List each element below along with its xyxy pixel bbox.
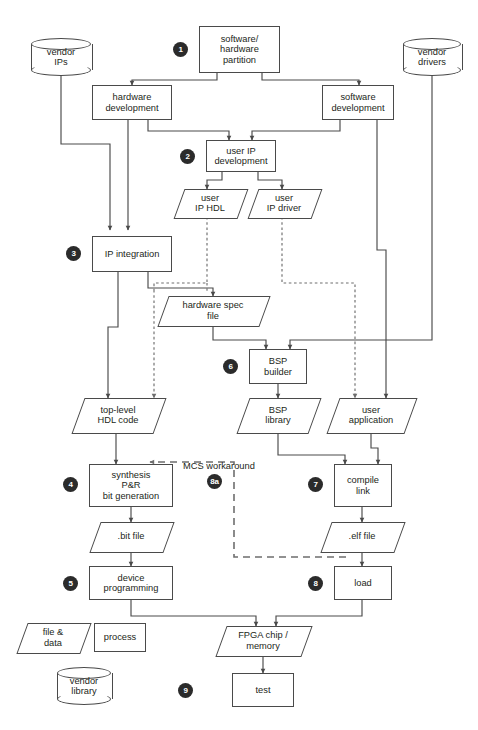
step-badge-9: 9 — [178, 683, 193, 698]
hardware-development-label: hardware development — [103, 92, 160, 113]
legend-process-label: process — [102, 632, 139, 642]
device-programming-label: device programming — [102, 573, 161, 594]
step-badge-2: 2 — [180, 149, 195, 164]
load-process: load — [334, 566, 392, 600]
bit-file: .bit file — [95, 522, 167, 551]
user-ip-development-label: user IP development — [212, 146, 269, 167]
elf-file-label: .elf file — [347, 531, 378, 541]
ip-integration-label: IP integration — [103, 249, 162, 259]
hardware-development-process: hardware development — [92, 85, 172, 120]
ip-integration-process: IP integration — [92, 236, 172, 272]
compile-link-process: compile link — [334, 464, 392, 507]
fpga-chip-memory-label: FPGA chip / memory — [236, 630, 290, 651]
vendor-drivers-datastore: vendor drivers — [403, 38, 461, 76]
device-programming-process: device programming — [89, 566, 173, 600]
hardware-spec-file: hardware spec file — [163, 296, 263, 325]
legend-vendor-library-shape: vendor library — [57, 667, 111, 705]
user-application-file: user application — [333, 398, 409, 432]
step-badge-8a: 8a — [207, 474, 222, 489]
bsp-library-file: BSP library — [243, 398, 313, 432]
bsp-builder-process: BSP builder — [249, 349, 307, 384]
top-level-hdl-code-label: top-level HDL code — [96, 405, 141, 426]
compile-link-label: compile link — [345, 475, 381, 496]
user-ip-driver-label: user IP driver — [265, 193, 303, 214]
legend-vendor-library-label: vendor library — [68, 676, 100, 697]
synthesis-label: synthesis P&R bit generation — [101, 470, 161, 501]
bsp-library-label: BSP library — [263, 405, 292, 426]
vendor-drivers-label: vendor drivers — [416, 47, 448, 68]
load-label: load — [352, 578, 374, 588]
step-badge-8: 8 — [308, 576, 323, 591]
software-development-process: software development — [322, 85, 394, 120]
hardware-spec-file-label: hardware spec file — [181, 300, 246, 321]
step-badge-1: 1 — [173, 42, 188, 57]
test-process: test — [232, 673, 294, 707]
bsp-builder-label: BSP builder — [262, 356, 294, 377]
legend-process-shape: process — [94, 623, 146, 652]
flowchart-diagram: vendor IPs vendor drivers software/ hard… — [0, 0, 478, 730]
user-ip-hdl-file: user IP HDL — [179, 189, 241, 217]
user-ip-development-process: user IP development — [206, 140, 276, 172]
mcs-workaround-label: MCS workaround — [183, 461, 255, 471]
top-level-hdl-code-file: top-level HDL code — [78, 398, 158, 432]
vendor-ips-label: vendor IPs — [45, 47, 77, 68]
step-badge-7: 7 — [308, 477, 323, 492]
step-badge-4: 4 — [63, 477, 78, 492]
step-badge-6: 6 — [223, 359, 238, 374]
software-development-label: software development — [329, 92, 386, 113]
synthesis-process: synthesis P&R bit generation — [89, 464, 173, 507]
step-badge-3: 3 — [66, 246, 81, 261]
step-badge-5: 5 — [63, 576, 78, 591]
legend-file-and-data-shape: file & data — [22, 623, 84, 652]
test-label: test — [254, 685, 273, 695]
user-ip-hdl-label: user IP HDL — [193, 193, 227, 214]
fpga-chip-memory-file: FPGA chip / memory — [221, 626, 305, 655]
legend-file-and-data-label: file & data — [41, 627, 66, 648]
software-hardware-partition-label: software/ hardware partition — [218, 34, 261, 65]
vendor-ips-datastore: vendor IPs — [31, 38, 91, 76]
connector-layer — [0, 0, 478, 730]
software-hardware-partition-process: software/ hardware partition — [199, 26, 280, 73]
user-ip-driver-file: user IP driver — [253, 189, 315, 217]
bit-file-label: .bit file — [116, 531, 147, 541]
user-application-label: user application — [347, 405, 395, 426]
elf-file: .elf file — [326, 522, 398, 551]
